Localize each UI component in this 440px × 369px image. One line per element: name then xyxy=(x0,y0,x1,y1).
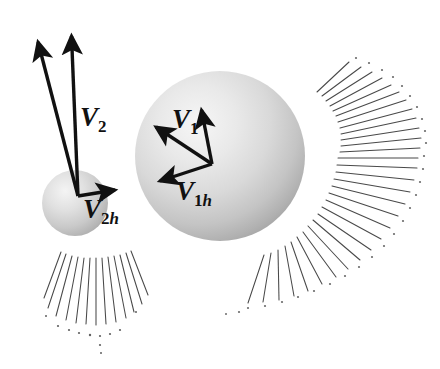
label-v1-base: V xyxy=(172,104,190,134)
label-v2-base: V xyxy=(80,102,98,132)
large-sphere xyxy=(135,71,305,241)
label-v2h-subscript-h: h xyxy=(110,209,119,228)
velocity-vector-figure: V2 V2h V1 V1h xyxy=(0,0,440,369)
figure-canvas xyxy=(0,0,440,369)
label-v2-subscript: 2 xyxy=(98,117,107,136)
label-v1: V1 xyxy=(172,106,199,137)
label-v2h: V2h xyxy=(83,196,119,227)
label-v2h-base: V xyxy=(83,194,101,224)
small-sphere-hatch-fan xyxy=(44,251,148,325)
label-v1h-base: V xyxy=(176,176,194,206)
label-v2: V2 xyxy=(80,104,107,135)
label-v1h: V1h xyxy=(176,178,212,209)
label-v2h-subscript: 2 xyxy=(101,209,110,228)
label-v1h-subscript-h: h xyxy=(203,191,212,210)
label-v1-subscript: 1 xyxy=(190,119,199,138)
small-fan-speckles xyxy=(45,311,137,354)
label-v1h-subscript: 1 xyxy=(194,191,203,210)
